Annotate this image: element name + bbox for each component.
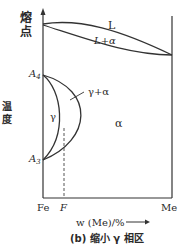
x-axis-title: w (Me)/% xyxy=(76,217,125,228)
y-axis-arrow-icon xyxy=(41,8,46,15)
point-a4: A4 xyxy=(28,68,41,81)
y-label-char-2: 点 xyxy=(20,24,32,39)
region-gamma-alpha: γ+α xyxy=(88,86,109,97)
x-label-f: F xyxy=(59,202,68,213)
region-gamma: γ xyxy=(50,111,56,122)
figure-caption: (b) 缩小 γ 相区 xyxy=(70,232,144,244)
region-alpha: α xyxy=(115,117,123,130)
y-label-char-1: 熔 xyxy=(20,10,33,25)
region-liquid-alpha: L+α xyxy=(93,35,116,46)
point-a3: A3 xyxy=(28,153,41,166)
x-label-me: Me xyxy=(161,202,177,213)
region-liquid: L xyxy=(108,19,116,32)
x-label-fe: Fe xyxy=(37,202,49,213)
right-arrow-icon xyxy=(145,220,150,225)
temp-label-char-2: 度 xyxy=(2,113,13,125)
gamma-outer-boundary xyxy=(43,75,81,160)
phase-diagram: 熔 点 温 度 L L+α γ γ+α α A4 A3 Fe F Me w (M… xyxy=(0,0,182,251)
temp-label-char-1: 温 xyxy=(2,100,12,112)
